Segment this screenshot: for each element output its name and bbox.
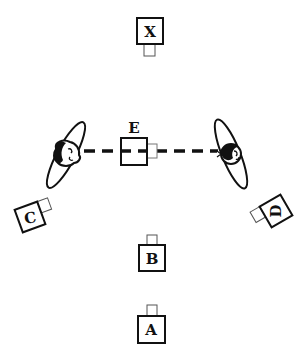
camera-b: B — [139, 235, 165, 271]
camera-a-label: A — [144, 321, 157, 339]
camera-x-label: X — [144, 23, 156, 41]
camera-layout-diagram: X E — [0, 0, 305, 347]
camera-c: C — [15, 198, 56, 233]
camera-x: X — [137, 18, 163, 56]
camera-e-label: E — [128, 119, 139, 137]
camera-x-tab — [144, 44, 155, 56]
camera-b-tab — [147, 235, 157, 245]
camera-a: A — [138, 305, 165, 343]
camera-d: D — [250, 195, 292, 233]
right-person — [202, 115, 257, 195]
left-person — [33, 114, 99, 196]
camera-b-label: B — [146, 250, 159, 268]
camera-e: E — [121, 119, 157, 165]
camera-a-tab — [147, 305, 157, 316]
diagram-canvas: X E — [0, 0, 305, 347]
camera-e-tab — [147, 144, 157, 158]
camera-d-label: D — [267, 204, 285, 217]
